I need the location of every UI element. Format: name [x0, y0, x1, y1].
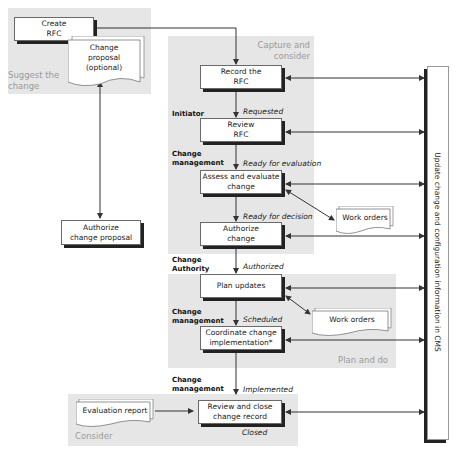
work-orders-text-2: Work orders — [312, 315, 392, 325]
coordinate-implementation-box[interactable]: Coordinate change implementation* — [200, 326, 282, 350]
state-ready-for-decision: Ready for decision — [243, 212, 313, 222]
review-rfc-box[interactable]: Review RFC — [200, 118, 282, 142]
role-change-management-3: Change management — [172, 376, 224, 394]
state-scheduled: Scheduled — [243, 315, 282, 325]
state-requested: Requested — [243, 107, 283, 117]
evaluation-report-text: Evaluation report — [76, 406, 154, 416]
record-rfc-box[interactable]: Record the RFC — [200, 65, 282, 89]
work-orders-document-2[interactable]: Work orders — [312, 308, 392, 336]
state-implemented: Implemented — [243, 385, 293, 395]
authorize-change-proposal-box[interactable]: Authorize change proposal — [61, 220, 141, 245]
change-proposal-document[interactable]: Change proposal (optional) — [68, 36, 146, 86]
plan-updates-box[interactable]: Plan updates — [200, 274, 282, 298]
work-orders-text-1: Work orders — [336, 213, 394, 223]
work-orders-document-1[interactable]: Work orders — [336, 206, 394, 234]
change-proposal-text: Change proposal (optional) — [68, 43, 140, 73]
assess-evaluate-box[interactable]: Assess and evaluate change — [200, 170, 282, 194]
evaluation-report-document[interactable]: Evaluation report — [76, 399, 154, 427]
role-initiator: Initiator — [172, 110, 204, 119]
authorize-change-box[interactable]: Authorize change — [200, 222, 282, 246]
role-change-authority: Change Authority — [172, 256, 209, 274]
cms-update-label: Update change and configuration informat… — [433, 152, 442, 352]
role-change-management-2: Change management — [172, 308, 224, 326]
role-change-management-1: Change management — [172, 150, 224, 168]
state-authorized: Authorized — [243, 262, 284, 272]
state-closed: Closed — [242, 428, 267, 438]
review-close-box[interactable]: Review and close change record — [198, 400, 282, 424]
state-ready-for-evaluation: Ready for evaluation — [243, 159, 321, 169]
